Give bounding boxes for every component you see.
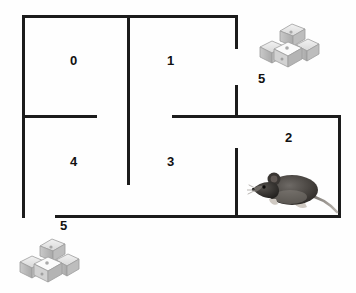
- room-label-0: 0: [70, 54, 77, 67]
- goal-label-5: 5: [258, 72, 265, 85]
- room-label-1: 1: [167, 54, 174, 67]
- cheese-icon: [18, 236, 80, 284]
- mouse-icon: [247, 163, 339, 215]
- outer-top-wall: [22, 15, 238, 18]
- goal5-lower-wall: [235, 85, 238, 118]
- maze-diagram: 01234 5: [0, 0, 356, 293]
- goal5-upper-wall: [235, 15, 238, 49]
- room-label-2: 2: [285, 131, 292, 144]
- room2-room3-divider: [235, 148, 238, 218]
- room-label-3: 3: [167, 155, 174, 168]
- room0-room4-divider: [22, 115, 97, 118]
- room-label-4: 4: [70, 155, 77, 168]
- center-vertical-wall: [127, 15, 130, 185]
- outer-bottom-wall: [55, 215, 341, 218]
- goal-label-5: 5: [60, 219, 67, 232]
- room2-top-wall: [172, 115, 341, 118]
- cheese-icon: [258, 21, 320, 69]
